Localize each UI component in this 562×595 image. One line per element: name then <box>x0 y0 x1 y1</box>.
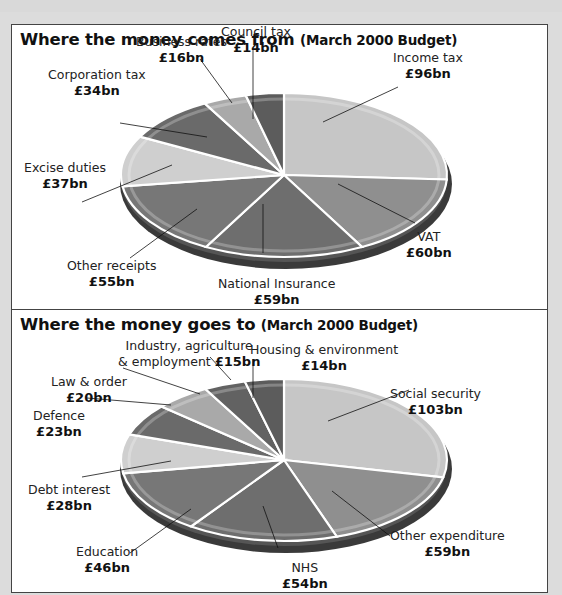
pie-slice-income-tax <box>284 93 447 180</box>
label-corporation-tax: Corporation tax£34bn <box>48 67 146 99</box>
label-council-tax: Council tax£14bn <box>221 24 291 56</box>
label-industry-agriculture-employment: Industry, agriculture& employment £15bn <box>118 338 260 370</box>
label-debt-interest: Debt interest£28bn <box>28 482 110 514</box>
label-income-tax: Income tax£96bn <box>393 50 463 82</box>
label-business-rates: Business rates£16bn <box>136 34 227 66</box>
leader-line <box>123 368 200 394</box>
label-law-order: Law & order£20bn <box>51 374 127 406</box>
label-excise-duties: Excise duties£37bn <box>24 160 106 192</box>
income-panel: Where the money comes from (March 2000 B… <box>11 24 548 310</box>
label-vat: VAT£60bn <box>406 229 452 261</box>
label-education: Education£46bn <box>76 544 138 576</box>
label-social-security: Social security£103bn <box>390 386 481 418</box>
label-defence: Defence£23bn <box>33 408 85 440</box>
label-nhs: NHS£54bn <box>282 560 328 592</box>
label-other-expenditure: Other expenditure£59bn <box>390 528 505 560</box>
spending-panel: Where the money goes to (March 2000 Budg… <box>11 309 548 593</box>
label-national-insurance: National Insurance£59bn <box>218 276 335 308</box>
label-other-receipts: Other receipts£55bn <box>67 258 156 290</box>
label-housing-environment: Housing & environment£14bn <box>250 342 398 374</box>
